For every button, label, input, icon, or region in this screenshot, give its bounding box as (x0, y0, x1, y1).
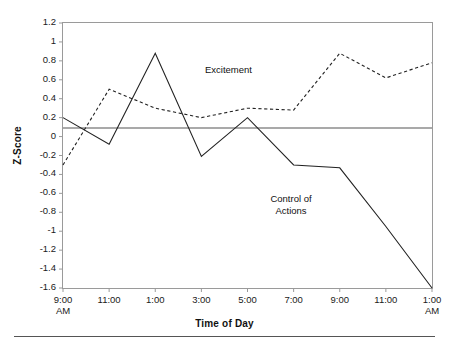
footer-divider (14, 336, 435, 337)
series-label-control-of-actions: Control of Actions (262, 193, 320, 217)
series-label-excitement: Excitement (205, 64, 252, 76)
x-tick-label: 1:00AM (402, 294, 449, 316)
chart-figure: Z-Score 1.210.80.60.40.20-0.2-0.4-0.6-0.… (0, 0, 449, 344)
x-axis-title: Time of Day (0, 318, 449, 329)
x-axis-tick-labels: 9:00AM11:001:003:005:007:009:0011:001:00… (0, 0, 449, 344)
series-label-control-line2: Actions (275, 205, 306, 216)
series-label-control-line1: Control of (270, 193, 311, 204)
